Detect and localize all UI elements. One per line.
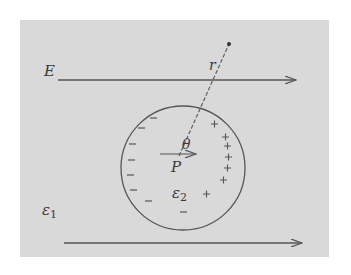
field-label: E [43,62,55,80]
angle-label: θ [182,136,191,152]
epsilon-2-label: ε2 [172,184,187,204]
diagram-canvas: E r θ P ε2 ε1 [0,0,351,275]
epsilon-1-label: ε1 [42,201,57,221]
polarization-label: P [170,158,182,176]
radius-label: r [209,57,217,73]
field-point [227,42,231,46]
positive-charges [203,121,232,198]
